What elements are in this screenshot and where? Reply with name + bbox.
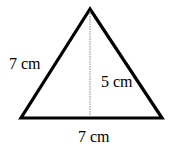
left-side-label: 7 cm bbox=[9, 55, 41, 72]
height-label: 5 cm bbox=[101, 73, 133, 90]
triangle-diagram: 7 cm 5 cm 7 cm bbox=[0, 0, 172, 148]
base-label: 7 cm bbox=[78, 128, 110, 145]
triangle bbox=[21, 9, 162, 118]
